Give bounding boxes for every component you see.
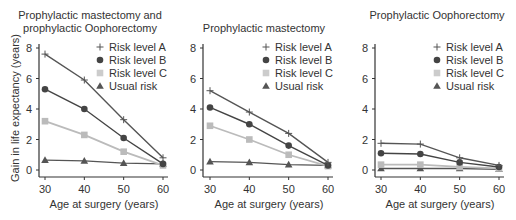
- x-tick-label: 30: [375, 183, 387, 195]
- series-usual-risk: [206, 158, 332, 168]
- y-tick-label: 6: [190, 73, 196, 85]
- x-tick-label: 60: [493, 183, 505, 195]
- x-tick-label: 60: [157, 183, 169, 195]
- chart-panel-2: Prophylactic mastectomy0246830405060Age …: [190, 22, 334, 210]
- legend-item-label: Risk level B: [275, 54, 332, 66]
- legend: Risk level ARisk level BRisk level CUsua…: [433, 41, 504, 92]
- legend-item-label: Risk level A: [109, 41, 167, 53]
- chart-panel-3: Prophylactic Oophorectomy0246830405060Ag…: [362, 9, 505, 210]
- legend-item-label: Usual risk: [446, 80, 495, 92]
- y-tick-label: 8: [26, 42, 32, 54]
- x-tick-label: 30: [39, 183, 51, 195]
- legend-item-label: Usual risk: [275, 80, 324, 92]
- x-tick-label: 60: [322, 183, 334, 195]
- y-tick-label: 8: [190, 42, 196, 54]
- x-tick-label: 40: [78, 183, 90, 195]
- legend-item-label: Risk level C: [109, 67, 167, 79]
- legend: Risk level ARisk level BRisk level CUsua…: [96, 41, 167, 92]
- legend-item-label: Risk level A: [446, 41, 504, 53]
- chart-title: prophylactic Oophorectomy: [23, 22, 157, 34]
- legend-item-label: Risk level C: [275, 67, 333, 79]
- y-tick-label: 2: [190, 134, 196, 146]
- x-tick-label: 40: [243, 183, 255, 195]
- y-tick-label: 2: [26, 134, 32, 146]
- series-risk-level-b: [207, 104, 332, 169]
- x-axis-label: Age at surgery (years): [386, 198, 495, 210]
- series-risk-level-a: [207, 87, 332, 166]
- x-axis-label: Age at surgery (years): [50, 198, 159, 210]
- legend-item-label: Risk level B: [446, 54, 503, 66]
- legend-item-label: Risk level A: [275, 41, 333, 53]
- legend: Risk level ARisk level BRisk level CUsua…: [262, 41, 333, 92]
- legend-item-label: Usual risk: [109, 80, 158, 92]
- chart-title: Prophylactic Oophorectomy: [369, 9, 505, 21]
- y-tick-label: 0: [190, 164, 196, 176]
- x-tick-label: 30: [204, 183, 216, 195]
- chart-panel-1: Prophylactic mastectomy andprophylactic …: [9, 9, 169, 210]
- legend-item-label: Risk level C: [446, 67, 504, 79]
- legend-item-label: Risk level B: [109, 54, 166, 66]
- y-tick-label: 6: [362, 73, 368, 85]
- chart-figure: Prophylactic mastectomy andprophylactic …: [0, 0, 516, 220]
- x-tick-label: 50: [283, 183, 295, 195]
- y-tick-label: 0: [26, 164, 32, 176]
- y-tick-label: 6: [26, 73, 32, 85]
- y-tick-label: 4: [26, 103, 32, 115]
- y-tick-label: 4: [362, 103, 368, 115]
- y-tick-label: 8: [362, 42, 368, 54]
- x-tick-label: 40: [414, 183, 426, 195]
- y-tick-label: 4: [190, 103, 196, 115]
- x-axis-label: Age at surgery (years): [215, 198, 324, 210]
- chart-title: Prophylactic mastectomy: [203, 22, 326, 34]
- series-usual-risk: [41, 156, 167, 166]
- y-tick-label: 2: [362, 134, 368, 146]
- x-tick-label: 50: [118, 183, 130, 195]
- y-tick-label: 0: [362, 164, 368, 176]
- chart-title: Prophylactic mastectomy and: [18, 9, 162, 21]
- x-tick-label: 50: [454, 183, 466, 195]
- y-axis-label: Gain in life expectancy (years): [9, 34, 21, 182]
